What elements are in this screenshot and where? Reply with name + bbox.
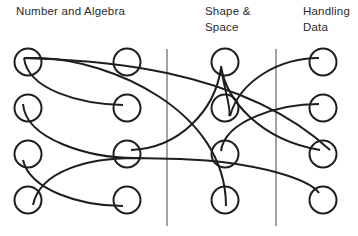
node-b4 bbox=[114, 187, 141, 214]
node-d1 bbox=[310, 49, 337, 76]
connection-a2-b3 bbox=[23, 104, 135, 158]
node-c1 bbox=[212, 49, 239, 76]
node-a3 bbox=[15, 141, 42, 168]
connection-c3-d2 bbox=[221, 104, 319, 151]
node-b2 bbox=[114, 95, 141, 122]
node-b3 bbox=[114, 141, 141, 168]
connection-c2-d1 bbox=[230, 58, 319, 116]
node-d2 bbox=[310, 95, 337, 122]
connection-a1-b2 bbox=[24, 58, 123, 105]
diagram-canvas: Number and Algebra Shape & Space Handlin… bbox=[0, 0, 358, 236]
node-a4 bbox=[15, 187, 42, 214]
connection-diagram bbox=[0, 0, 358, 236]
node-b1 bbox=[114, 49, 141, 76]
node-d4 bbox=[310, 187, 337, 214]
